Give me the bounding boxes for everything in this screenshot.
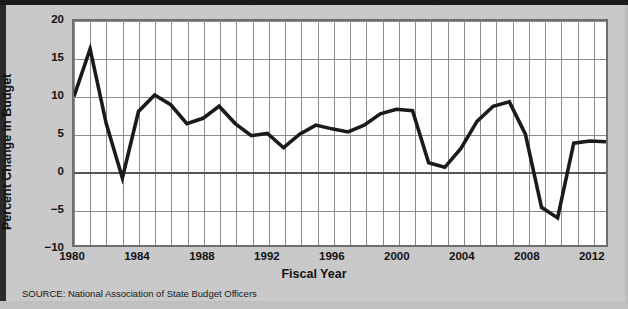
x-tick-label: 2012 [579, 250, 605, 262]
x-tick-label: 2008 [514, 250, 540, 262]
x-tick-label: 1988 [189, 250, 215, 262]
x-tick-label: 1980 [59, 250, 85, 262]
x-tick-label: 1992 [254, 250, 280, 262]
source-note: SOURCE: National Association of State Bu… [22, 288, 257, 299]
x-tick-label: 1984 [124, 250, 150, 262]
x-axis-tick-labels: 198019841988199219962000200420082012 [0, 0, 628, 309]
y-axis-title: Percent Change in Budget [0, 74, 14, 230]
y-axis-title-wrap: Percent Change in Budget [14, 30, 30, 230]
x-tick-label: 2004 [449, 250, 475, 262]
chart-figure: Annual Change in State General Fund Budg… [0, 0, 628, 309]
x-tick-label: 2000 [384, 250, 410, 262]
x-axis-title: Fiscal Year [0, 267, 628, 281]
x-tick-label: 1996 [319, 250, 345, 262]
